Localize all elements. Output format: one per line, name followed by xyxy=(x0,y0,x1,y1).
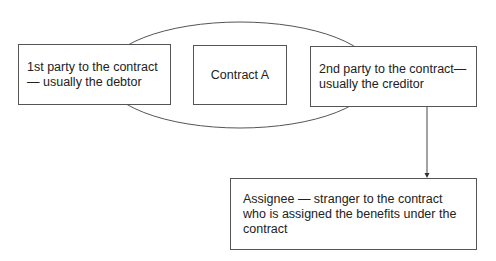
second-party-box: 2nd party to the contract— usually the c… xyxy=(310,46,477,107)
first-party-label: 1st party to the contract— usually the d… xyxy=(27,60,167,90)
contract-label: Contract A xyxy=(211,68,269,83)
assignee-label: Assignee — stranger to the contract who … xyxy=(243,192,468,237)
contract-box: Contract A xyxy=(193,45,287,105)
assignee-box: Assignee — stranger to the contract who … xyxy=(230,178,477,250)
second-party-label: 2nd party to the contract— usually the c… xyxy=(319,62,469,92)
first-party-box: 1st party to the contract— usually the d… xyxy=(18,44,171,105)
